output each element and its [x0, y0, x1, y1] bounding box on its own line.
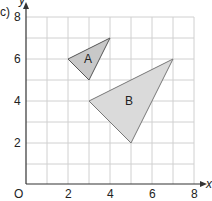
- x-tick: 6: [149, 188, 156, 200]
- y-tick: 2: [14, 137, 21, 149]
- y-tick: 8: [14, 11, 21, 23]
- shape-label-b: B: [125, 95, 133, 107]
- x-tick: 8: [191, 188, 198, 200]
- x-axis-label: x: [206, 178, 212, 190]
- part-label: c): [0, 6, 10, 18]
- shape-label-a: A: [84, 53, 92, 65]
- x-tick: 2: [65, 188, 72, 200]
- y-axis-label: y: [19, 0, 25, 6]
- x-tick: 4: [107, 188, 114, 200]
- y-tick: 6: [14, 53, 21, 65]
- origin-label: O: [14, 188, 23, 200]
- coordinate-grid: [0, 0, 212, 201]
- y-tick: 4: [14, 95, 21, 107]
